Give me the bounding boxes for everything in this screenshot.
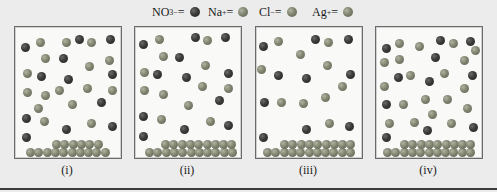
panel-caption-iv: (iv)	[375, 163, 481, 178]
dissolved-ion	[201, 61, 210, 70]
dissolved-ion	[87, 38, 96, 47]
nitrate-ion	[394, 73, 403, 82]
nitrate-ion	[221, 33, 230, 42]
panel-caption-ii: (ii)	[134, 163, 240, 178]
legend-silver: Ag+ =	[312, 3, 353, 21]
legend-equals: =	[227, 5, 234, 20]
precipitate-ion	[169, 140, 178, 149]
dissolved-ion	[415, 42, 424, 51]
legend-chloride: Cl− =	[259, 3, 297, 21]
legend-sodium: Na+ =	[208, 3, 248, 21]
nitrate-ion	[139, 112, 148, 121]
legend-nitrate: NO3− =	[152, 3, 200, 21]
nitrate-ion	[22, 114, 31, 123]
dissolved-ion	[108, 86, 117, 95]
dissolved-ion	[157, 115, 166, 124]
nitrate-ion	[75, 35, 84, 44]
legend-formula: Ag	[312, 5, 327, 20]
nitrate-ion	[382, 44, 391, 53]
nitrate-ion	[108, 70, 117, 79]
dissolved-ion	[380, 58, 389, 67]
dissolved-ion	[296, 50, 305, 59]
nitrate-ion	[344, 35, 353, 44]
dissolved-ion	[41, 91, 50, 100]
nitrate-ion	[469, 123, 478, 132]
nitrate-ion	[274, 71, 283, 80]
precipitate-ion	[228, 148, 237, 157]
panel-caption-iii: (iii)	[255, 163, 361, 178]
nitrate-ion	[191, 33, 200, 42]
dissolved-ion	[277, 98, 286, 107]
nitrate-ion	[436, 36, 445, 45]
precipitate-ion	[227, 140, 236, 149]
dissolved-ion	[380, 82, 389, 91]
dissolved-ion	[274, 37, 283, 46]
dissolved-ion	[34, 104, 43, 113]
precipitate-ion	[101, 148, 110, 157]
nitrate-ion	[345, 122, 354, 131]
dissolved-ion	[299, 99, 308, 108]
precipitate-ion	[416, 148, 425, 157]
dissolved-ion	[399, 100, 408, 109]
precipitate-ion	[466, 148, 475, 157]
beaker-panel-iv	[375, 26, 483, 159]
dissolved-ion	[41, 54, 50, 63]
precipitate-ion	[271, 148, 280, 157]
precipitate-ion	[178, 148, 187, 157]
legend-formula: Cl	[259, 5, 270, 20]
dissolved-ion	[85, 62, 94, 71]
dissolved-ion	[105, 56, 114, 65]
precipitate-ion	[346, 148, 355, 157]
legend-formula: Na	[208, 5, 222, 20]
nitrate-ion	[423, 126, 432, 135]
ion-legend: NO3− = Na+ = Cl− = Ag+ =	[0, 3, 497, 21]
dissolved-ion	[447, 119, 456, 128]
nitrate-ion	[139, 132, 148, 141]
precipitate-ion	[391, 148, 400, 157]
precipitate-ion	[194, 140, 203, 149]
dissolved-ion	[395, 39, 404, 48]
dissolved-ion	[140, 86, 149, 95]
nitrate-ion	[153, 70, 162, 79]
nitrate-ion	[382, 133, 391, 142]
dissolved-ion	[206, 117, 215, 126]
nitrate-ion	[260, 98, 269, 107]
precipitate-ion	[94, 140, 103, 149]
dissolved-ion	[159, 52, 168, 61]
nitrate-ion	[302, 74, 311, 83]
dissolved-ion	[62, 38, 71, 47]
nitrate-ion	[180, 125, 189, 134]
dissolved-ion	[198, 82, 207, 91]
dissolved-ion	[406, 71, 415, 80]
panel-caption-i: (i)	[14, 163, 120, 178]
precipitate-ion	[59, 148, 68, 157]
silver-ball-icon	[343, 7, 353, 17]
precipitate-ion	[433, 140, 442, 149]
precipitate-ion	[85, 140, 94, 149]
dissolved-ion	[257, 65, 266, 74]
dissolved-ion	[460, 84, 469, 93]
nitrate-ion	[224, 121, 233, 130]
dissolved-ion	[338, 82, 347, 91]
dissolved-ion	[83, 84, 92, 93]
beaker-panel-iii	[255, 26, 363, 159]
precipitate-ion	[346, 140, 355, 149]
dissolved-ion	[325, 119, 334, 128]
bottom-divider	[0, 188, 497, 190]
legend-equals: =	[331, 5, 338, 20]
nitrate-ion	[106, 35, 115, 44]
legend-equals: =	[275, 5, 282, 20]
precipitate-ion	[153, 148, 162, 157]
nitrate-ion	[215, 96, 224, 105]
nitrate-ion	[302, 125, 311, 134]
precipitate-ion	[313, 140, 322, 149]
dissolved-ion	[460, 56, 469, 65]
dissolved-ion	[471, 46, 480, 55]
dissolved-ion	[55, 86, 64, 95]
dissolved-ion	[224, 84, 233, 93]
precipitate-ion	[466, 140, 475, 149]
dissolved-ion	[324, 38, 333, 47]
nitrate-ion	[259, 133, 268, 142]
precipitate-ion	[296, 148, 305, 157]
dissolved-ion	[428, 110, 437, 119]
